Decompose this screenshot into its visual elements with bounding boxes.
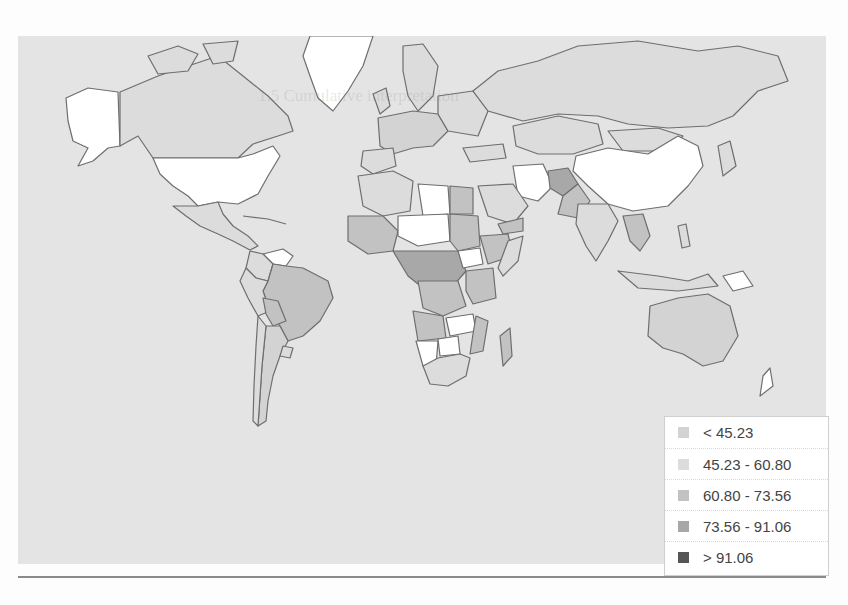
region-indonesia <box>618 271 718 291</box>
legend-label: > 91.06 <box>703 549 753 566</box>
bleed-through-text: 1.5 Cumulative interpretation <box>258 86 459 106</box>
region-libya <box>418 184 450 216</box>
legend-swatch <box>678 552 689 563</box>
region-japan <box>718 141 736 176</box>
map-legend: < 45.23 45.23 - 60.80 60.80 - 73.56 73.5… <box>664 416 829 576</box>
region-alaska <box>66 88 120 166</box>
region-madagascar <box>500 328 512 366</box>
legend-item: 73.56 - 91.06 <box>665 510 828 541</box>
region-caribbean <box>243 216 286 224</box>
region-canada <box>120 56 293 158</box>
region-iberia <box>361 148 396 174</box>
legend-swatch <box>678 459 689 470</box>
region-north-africa-west <box>358 171 413 216</box>
region-drc <box>418 281 466 316</box>
region-botswana <box>438 336 460 356</box>
legend-item: > 91.06 <box>665 541 828 572</box>
region-india <box>576 204 618 261</box>
region-egypt <box>450 186 473 214</box>
region-russia <box>473 41 788 128</box>
region-philippines <box>678 224 690 248</box>
legend-item: < 45.23 <box>665 417 828 447</box>
legend-label: 60.80 - 73.56 <box>703 487 791 504</box>
region-southeast-asia <box>623 214 650 251</box>
legend-item: 60.80 - 73.56 <box>665 479 828 510</box>
region-south-sudan <box>458 248 483 268</box>
legend-item: 45.23 - 60.80 <box>665 448 828 479</box>
region-west-africa <box>348 216 398 254</box>
legend-label: 73.56 - 91.06 <box>703 518 791 535</box>
region-australia <box>648 294 738 366</box>
legend-label: 45.23 - 60.80 <box>703 456 791 473</box>
legend-swatch <box>678 427 689 438</box>
legend-swatch <box>678 521 689 532</box>
region-western-europe <box>378 111 448 154</box>
legend-label: < 45.23 <box>703 424 753 441</box>
region-uruguay <box>280 346 293 358</box>
legend-swatch <box>678 490 689 501</box>
region-mexico <box>173 202 258 250</box>
region-papua <box>723 271 753 291</box>
region-zambia <box>446 314 476 336</box>
divider-line <box>18 576 826 578</box>
region-sudan <box>450 214 480 251</box>
region-east-africa <box>466 268 496 304</box>
region-turkey <box>463 144 506 162</box>
region-new-zealand <box>760 368 773 396</box>
region-kazakhstan <box>513 116 603 154</box>
region-angola <box>413 311 446 341</box>
region-niger-chad <box>398 214 450 246</box>
